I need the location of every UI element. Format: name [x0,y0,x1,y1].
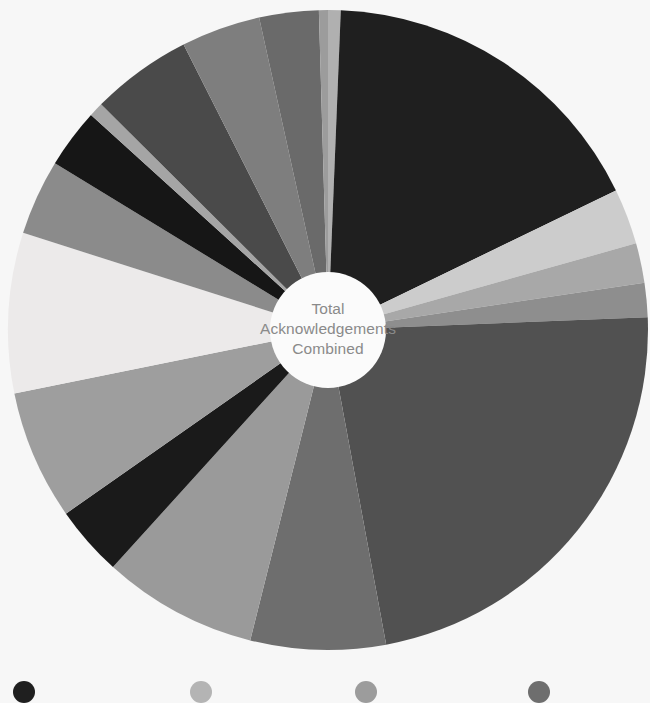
chart-legend [0,664,650,694]
legend-swatch[interactable] [190,681,212,703]
center-label-line1: Total [311,300,344,317]
center-label-line2: Acknowledgements [260,320,396,337]
legend-swatch[interactable] [528,681,550,703]
legend-swatch[interactable] [355,681,377,703]
legend-swatch[interactable] [13,681,35,703]
center-label-line3: Combined [292,340,363,357]
